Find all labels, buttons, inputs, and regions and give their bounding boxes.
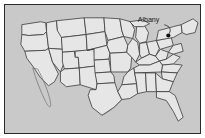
state-louisiana bbox=[118, 84, 138, 100]
state-new-england bbox=[181, 19, 198, 35]
state-washington bbox=[22, 22, 47, 36]
state-montana bbox=[56, 18, 86, 38]
albany-marker-dot bbox=[166, 33, 170, 37]
state-kansas bbox=[94, 59, 111, 73]
state-michigan-lower bbox=[136, 26, 149, 44]
state-missouri bbox=[110, 52, 132, 72]
map-frame: Albany bbox=[4, 4, 201, 134]
state-north-carolina bbox=[161, 64, 182, 73]
state-alabama bbox=[146, 73, 157, 92]
albany-label: Albany bbox=[138, 16, 160, 24]
us-map: Albany bbox=[5, 5, 200, 133]
state-new-mexico bbox=[79, 66, 97, 90]
state-wyoming bbox=[61, 35, 87, 53]
state-arizona bbox=[60, 68, 80, 87]
state-florida bbox=[156, 92, 183, 122]
map-figure: Albany bbox=[0, 0, 205, 138]
state-oklahoma bbox=[95, 72, 115, 84]
state-shapes bbox=[21, 18, 198, 121]
